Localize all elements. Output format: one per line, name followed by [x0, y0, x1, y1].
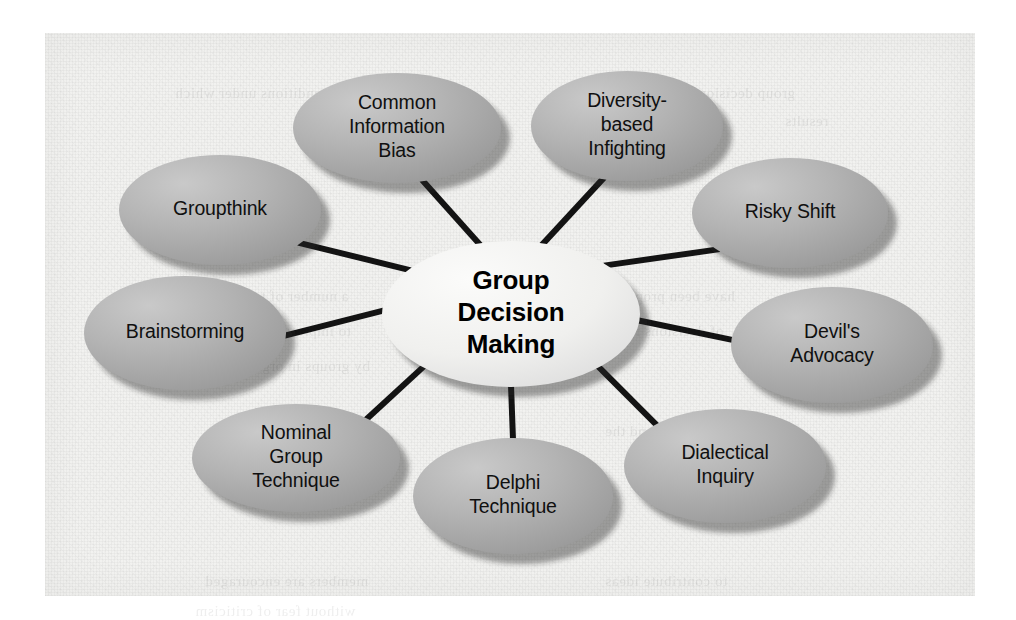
connector-brainstorming — [284, 310, 384, 336]
node-label-groupthink: Groupthink — [173, 197, 267, 219]
connector-nominal-group-technique — [366, 366, 425, 420]
connector-risky-shift — [604, 249, 720, 266]
node-diversity-based-infighting[interactable]: Diversity-basedInfighting — [531, 71, 723, 181]
node-label-risky-shift: Risky Shift — [745, 200, 836, 222]
center-node-label: GroupDecisionMaking — [458, 265, 565, 359]
node-delphi-technique[interactable]: DelphiTechnique — [413, 438, 613, 554]
node-nominal-group-technique[interactable]: NominalGroupTechnique — [192, 404, 400, 512]
node-common-information-bias[interactable]: CommonInformationBias — [293, 73, 501, 183]
node-devils-advocacy[interactable]: Devil'sAdvocacy — [731, 287, 933, 403]
node-dialectical-inquiry[interactable]: DialecticalInquiry — [624, 409, 826, 523]
node-groupthink[interactable]: Groupthink — [119, 155, 321, 265]
node-brainstorming[interactable]: Brainstorming — [84, 276, 286, 390]
node-group-decision-making[interactable]: GroupDecisionMaking — [382, 241, 640, 387]
connector-diversity-based-infighting — [542, 177, 605, 245]
node-risky-shift[interactable]: Risky Shift — [692, 158, 888, 268]
node-label-brainstorming: Brainstorming — [126, 320, 244, 342]
connector-devils-advocacy — [638, 320, 734, 340]
